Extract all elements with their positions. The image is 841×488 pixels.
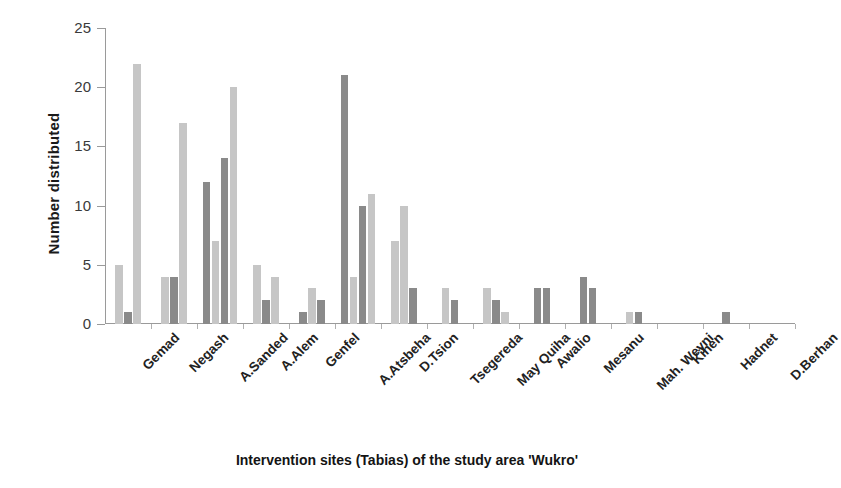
y-axis-tick: 15 <box>97 146 105 147</box>
x-axis-tick-label: Genfel <box>322 330 362 370</box>
bar <box>115 265 123 324</box>
bar <box>179 123 187 324</box>
bar <box>203 182 211 324</box>
bar <box>722 312 730 324</box>
bar <box>400 206 408 324</box>
x-axis-tick-label: Hadnet <box>737 330 780 373</box>
x-axis-tick <box>795 324 796 329</box>
bar <box>212 241 220 324</box>
bar <box>253 265 261 324</box>
bar <box>350 277 358 324</box>
x-tick-label-group: GemadNegashA.SandedA.AlemGenfelA.Atsbeha… <box>105 324 795 434</box>
y-axis-tick: 5 <box>97 265 105 266</box>
bar <box>391 241 399 324</box>
y-axis-tick-label: 25 <box>74 19 91 36</box>
bar <box>124 312 132 324</box>
bar <box>543 288 551 324</box>
bar <box>534 288 542 324</box>
y-axis-tick-label: 20 <box>74 78 91 95</box>
bar <box>133 64 141 324</box>
x-axis-tick-label: Negash <box>186 330 231 375</box>
bar <box>501 312 509 324</box>
x-axis-tick-label: Mesanu <box>601 330 647 376</box>
bar <box>262 300 270 324</box>
plot-area: 0510152025 <box>105 28 795 324</box>
bar <box>442 288 450 324</box>
bar <box>170 277 178 324</box>
bar <box>271 277 279 324</box>
bar <box>409 288 417 324</box>
y-axis-tick: 20 <box>97 87 105 88</box>
y-axis-line <box>105 28 106 324</box>
bar <box>580 277 588 324</box>
bar <box>161 277 169 324</box>
y-axis-tick-label: 5 <box>83 256 91 273</box>
bar <box>308 288 316 324</box>
bar <box>230 87 238 324</box>
y-axis-tick-label: 0 <box>83 315 91 332</box>
bar <box>451 300 459 324</box>
bar <box>359 206 367 324</box>
y-axis-tick-label: 10 <box>74 197 91 214</box>
y-axis-title: Number distributed <box>45 69 62 299</box>
bar <box>589 288 597 324</box>
bar <box>368 194 376 324</box>
y-axis-tick: 10 <box>97 206 105 207</box>
y-axis-tick: 25 <box>97 28 105 29</box>
y-axis-tick: 0 <box>97 324 105 325</box>
y-axis-tick-label: 15 <box>74 137 91 154</box>
bar <box>635 312 643 324</box>
bar <box>626 312 634 324</box>
bar <box>317 300 325 324</box>
x-axis-tick-label: D.Berhan <box>788 330 841 383</box>
bar <box>221 158 229 324</box>
x-axis-tick-label: Gemad <box>139 330 182 373</box>
bar <box>341 75 349 324</box>
x-axis-title: Intervention sites (Tabias) of the study… <box>0 452 814 468</box>
bar <box>299 312 307 324</box>
bar <box>483 288 491 324</box>
bar <box>492 300 500 324</box>
